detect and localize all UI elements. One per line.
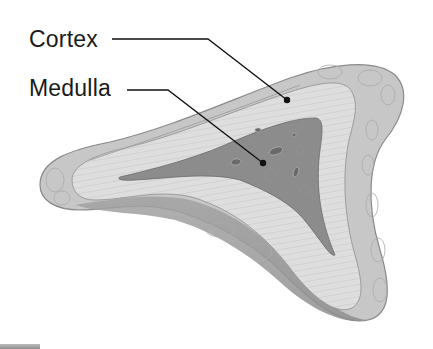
adrenal-gland-diagram: Cortex Medulla xyxy=(0,0,433,349)
label-medulla: Medulla xyxy=(29,77,111,100)
medulla-pointer-dot xyxy=(260,160,266,166)
page-edge-bar xyxy=(0,344,40,349)
label-cortex: Cortex xyxy=(29,28,98,51)
cortex-pointer-dot xyxy=(284,97,290,103)
adrenal-gland-illustration xyxy=(0,0,433,349)
